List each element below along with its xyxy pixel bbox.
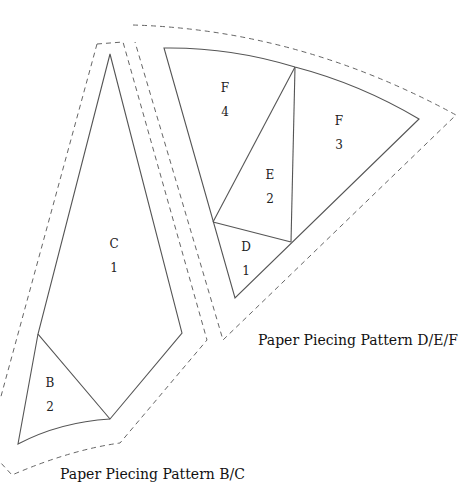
piece-f3-letter: F [335,115,343,127]
piece-d-number: 1 [242,265,250,277]
caption-def: Paper Piecing Pattern D/E/F [258,332,458,348]
piece-f3-number: 3 [335,139,343,151]
caption-bc: Paper Piecing Pattern B/C [60,466,245,482]
piece-b-letter: B [46,377,55,389]
bc-seam-allowance [0,42,207,475]
pattern-def [133,25,456,340]
piece-b-outline [18,334,110,444]
piece-f4-number: 4 [221,106,229,118]
piece-c-letter: C [109,238,118,250]
pattern-bc [0,42,207,475]
def-seam-d-e [213,222,291,242]
piece-d-letter: D [241,241,251,253]
piece-f4-letter: F [221,82,229,94]
piece-c-number: 1 [110,262,118,274]
piece-e-letter: E [266,169,275,181]
def-outer-outline [164,48,419,298]
piece-b-number: 2 [46,401,54,413]
piece-e-number: 2 [266,193,274,205]
def-seam-e-f3 [291,67,295,242]
pattern-diagram [0,0,464,492]
